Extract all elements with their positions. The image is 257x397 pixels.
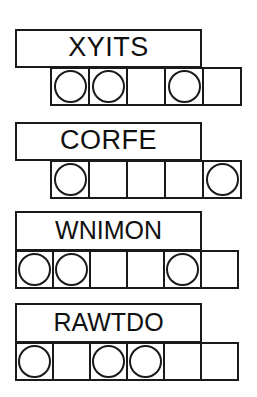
answer-cell[interactable] [164,160,204,199]
answer-cell[interactable] [89,250,128,289]
answer-cell[interactable] [126,342,165,381]
scrambled-word-box: CORFE [15,122,202,161]
answer-cell[interactable] [15,250,54,289]
word-scramble-sheet: XYITS CORFE WNIMON [0,0,257,397]
answer-cell[interactable] [202,67,242,106]
answer-grid [50,160,242,199]
answer-cell[interactable] [163,342,202,381]
scrambled-word-box: XYITS [15,29,202,68]
answer-cell[interactable] [163,250,202,289]
scrambled-word-text: XYITS [68,34,149,61]
answer-cell[interactable] [50,160,90,199]
answer-cell[interactable] [126,160,166,199]
answer-cell[interactable] [89,342,128,381]
answer-cell[interactable] [126,250,165,289]
answer-cell[interactable] [200,342,239,381]
answer-grid [15,250,239,289]
puzzle-row: XYITS [0,0,257,106]
answer-grid [15,342,239,381]
answer-cell[interactable] [202,160,242,199]
scrambled-word-text: WNIMON [55,218,162,243]
answer-cell[interactable] [50,67,90,106]
scrambled-word-text: CORFE [60,127,157,154]
answer-cell[interactable] [52,342,91,381]
answer-cell[interactable] [164,67,204,106]
scrambled-word-box: WNIMON [15,211,202,251]
scrambled-word-text: RAWTDO [53,310,163,335]
answer-cell[interactable] [88,160,128,199]
answer-cell[interactable] [126,67,166,106]
answer-cell[interactable] [200,250,239,289]
answer-cell[interactable] [52,250,91,289]
answer-grid [50,67,242,106]
answer-cell[interactable] [15,342,54,381]
scrambled-word-box: RAWTDO [15,303,202,343]
answer-cell[interactable] [88,67,128,106]
